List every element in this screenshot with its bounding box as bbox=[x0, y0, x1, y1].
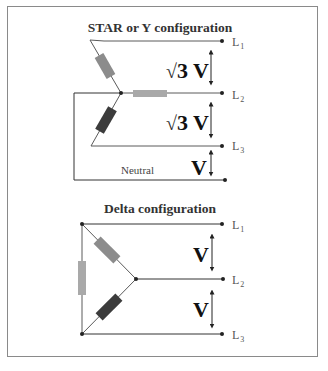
star-l2-terminal bbox=[220, 91, 224, 95]
star-title: STAR or Y configuration bbox=[88, 20, 233, 35]
delta-l3-terminal bbox=[220, 332, 224, 336]
three-phase-configuration-diagram: STAR or Y configuration L1 L2 L3 bbox=[0, 0, 328, 371]
delta-title: Delta configuration bbox=[104, 201, 217, 216]
neutral-label: Neutral bbox=[121, 164, 154, 176]
delta-resistor-left bbox=[78, 261, 86, 295]
figure-frame bbox=[8, 7, 318, 357]
delta-voltage-l2-l3: V bbox=[193, 297, 209, 322]
star-neutral-terminal bbox=[223, 178, 227, 182]
delta-l1-terminal bbox=[220, 222, 224, 226]
delta-bottom-node bbox=[80, 332, 84, 336]
star-resistor-phase2 bbox=[133, 90, 167, 97]
star-voltage-l3-neutral: V bbox=[191, 155, 207, 180]
delta-center-node bbox=[134, 277, 138, 281]
delta-l2-terminal bbox=[221, 277, 225, 281]
star-l1-terminal bbox=[220, 39, 224, 43]
star-voltage-l1-l2: √3 V bbox=[166, 58, 209, 83]
delta-voltage-l1-l2: V bbox=[193, 242, 209, 267]
delta-top-node bbox=[80, 222, 84, 226]
star-l3-terminal bbox=[220, 144, 224, 148]
star-center-node bbox=[119, 91, 123, 95]
star-voltage-l2-l3: √3 V bbox=[166, 110, 209, 135]
